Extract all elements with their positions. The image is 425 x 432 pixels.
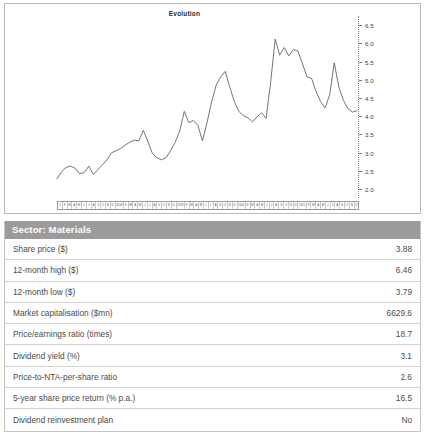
metric-value: 2.6 <box>400 372 412 382</box>
metrics-rows: Share price ($)3.8812-month high ($)6.46… <box>5 239 420 431</box>
table-row: 5-year share price return (% p.a.)16.5 <box>5 388 420 409</box>
y-axis-tick <box>359 43 362 44</box>
metric-label: Price/earnings ratio (times) <box>13 329 112 339</box>
x-axis-year-label: 2020 <box>238 202 246 209</box>
x-axis-year-label: 2019 <box>177 202 185 209</box>
metric-label: 12-month low ($) <box>13 287 75 297</box>
table-row: 12-month high ($)6.46 <box>5 260 420 281</box>
metric-value: 16.5 <box>396 393 412 403</box>
table-row: Dividend yield (%)3.1 <box>5 345 420 366</box>
y-axis-label: 5.0 <box>365 76 374 83</box>
metric-value: 6.46 <box>396 265 412 275</box>
y-axis-label: 2.0 <box>365 185 374 192</box>
y-axis-tick <box>359 98 362 99</box>
chart-plot-area <box>57 18 357 190</box>
metric-value: 3.1 <box>400 351 412 361</box>
y-axis-tick <box>359 62 362 63</box>
metric-value: 3.79 <box>396 287 412 297</box>
sector-header: Sector: Materials <box>5 221 420 239</box>
metric-value: 18.7 <box>396 329 412 339</box>
y-axis-label: 2.5 <box>365 167 374 174</box>
stock-profile-page: Evolution 6.56.05.55.04.54.03.53.02.52.0… <box>0 3 425 417</box>
metric-value: No <box>401 415 412 425</box>
x-axis-year-label: 2018 <box>116 202 124 209</box>
metric-label: Dividend yield (%) <box>13 351 80 361</box>
metric-label: 5-year share price return (% p.a.) <box>13 393 135 403</box>
fundamentals-table: Sector: Materials Share price ($)3.8812-… <box>4 221 421 432</box>
metric-label: Market capitalisation ($mn) <box>13 308 113 318</box>
y-axis-tick <box>359 171 362 172</box>
y-axis-label: 4.0 <box>365 113 374 120</box>
metric-value: 3.88 <box>396 244 412 254</box>
table-row: Dividend reinvestment planNo <box>5 409 420 430</box>
y-axis-tick <box>359 25 362 26</box>
chart-title: Evolution <box>0 10 392 17</box>
metric-label: Price-to-NTA-per-share ratio <box>13 372 117 382</box>
x-axis-month-label: D <box>355 202 359 209</box>
metric-label: Dividend reinvestment plan <box>13 415 113 425</box>
y-axis-label: 4.5 <box>365 94 374 101</box>
metric-label: 12-month high ($) <box>13 265 79 275</box>
table-row: Share price ($)3.88 <box>5 239 420 260</box>
y-axis-tick <box>359 116 362 117</box>
metric-value: 6629.6 <box>387 308 412 318</box>
table-row: Price-to-NTA-per-share ratio2.6 <box>5 367 420 388</box>
y-axis-label: 6.5 <box>365 22 374 29</box>
table-row: Market capitalisation ($mn)6629.6 <box>5 303 420 324</box>
metric-label: Share price ($) <box>13 244 68 254</box>
x-axis: JFMAMJJASOND2018FMAMJJASOND2019FMAMJJASO… <box>57 201 359 210</box>
y-axis-label: 5.5 <box>365 58 374 65</box>
share-price-line-chart <box>57 18 357 190</box>
table-row: Price/earnings ratio (times)18.7 <box>5 324 420 345</box>
evolution-chart-panel: Evolution 6.56.05.55.04.54.03.53.02.52.0… <box>4 3 421 214</box>
y-axis-tick <box>359 134 362 135</box>
y-axis-label: 6.0 <box>365 40 374 47</box>
table-row: 12-month low ($)3.79 <box>5 282 420 303</box>
x-axis-year-label: 2021 <box>298 202 306 209</box>
y-axis-tick <box>359 153 362 154</box>
share-price-series-line <box>57 39 357 179</box>
y-axis: 6.56.05.55.04.54.03.53.02.52.0 <box>358 16 359 198</box>
y-axis-tick <box>359 189 362 190</box>
y-axis-tick <box>359 80 362 81</box>
y-axis-label: 3.5 <box>365 131 374 138</box>
y-axis-label: 3.0 <box>365 149 374 156</box>
